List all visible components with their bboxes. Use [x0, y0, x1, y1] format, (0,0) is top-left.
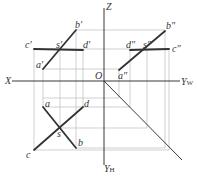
label-s: s	[57, 129, 61, 139]
label-s-dprime: s″	[143, 40, 151, 50]
label-a-prime: a′	[36, 60, 43, 70]
projection-diagram: Z X O YW YH b′ c′ s′ d′ a′ b″ d″ s″ c″ a…	[0, 0, 197, 177]
label-yw: YW	[181, 77, 193, 88]
axes	[12, 8, 182, 165]
label-yh: YH	[104, 164, 115, 175]
label-b-dprime: b″	[166, 21, 175, 31]
label-c: c	[26, 150, 30, 160]
label-b: b	[78, 138, 83, 148]
label-c-dprime: c″	[172, 44, 181, 54]
label-d: d	[84, 99, 89, 109]
label-b-prime: b′	[75, 20, 82, 30]
label-a-dprime: a″	[118, 71, 127, 81]
label-c-prime: c′	[25, 40, 32, 50]
label-a: a	[45, 99, 50, 109]
label-x: X	[5, 76, 11, 86]
label-o: O	[95, 71, 102, 81]
label-z: Z	[106, 2, 112, 12]
label-s-prime: s′	[56, 40, 62, 50]
label-d-dprime: d″	[126, 40, 135, 50]
label-d-prime: d′	[83, 40, 90, 50]
